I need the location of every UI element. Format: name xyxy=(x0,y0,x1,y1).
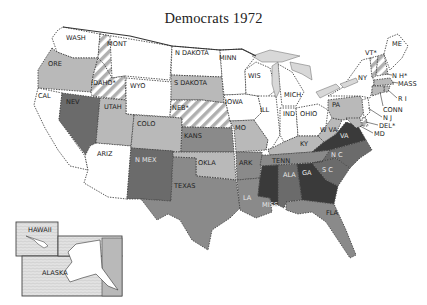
svg-text:N MEX: N MEX xyxy=(135,156,157,164)
state-wyo[interactable]: WYO xyxy=(126,78,172,117)
state-sdak[interactable]: S DAKOTA xyxy=(171,75,224,103)
svg-text:NY: NY xyxy=(358,74,368,82)
svg-text:TEXAS: TEXAS xyxy=(173,182,195,190)
svg-text:MONT: MONT xyxy=(107,40,128,48)
svg-text:MISS: MISS xyxy=(262,201,278,209)
svg-text:ALASKA: ALASKA xyxy=(42,269,68,277)
state-kans[interactable]: KANS xyxy=(181,127,234,152)
state-ri[interactable]: R I xyxy=(384,86,407,103)
svg-text:ARK: ARK xyxy=(239,159,253,167)
svg-text:LA: LA xyxy=(243,194,252,202)
svg-text:N H*: N H* xyxy=(392,72,408,80)
svg-text:WASH: WASH xyxy=(66,34,86,42)
svg-text:IND: IND xyxy=(283,110,295,118)
svg-text:N J: N J xyxy=(383,114,392,122)
svg-text:R I: R I xyxy=(398,95,407,103)
svg-text:ARIZ: ARIZ xyxy=(97,150,113,158)
inset-hawaii: HAWAII xyxy=(16,222,58,256)
svg-text:NEB*: NEB* xyxy=(172,104,190,112)
svg-text:OHIO: OHIO xyxy=(300,110,317,118)
svg-text:MINN: MINN xyxy=(219,54,237,62)
state-pa[interactable]: PA xyxy=(328,96,366,120)
svg-text:MD: MD xyxy=(374,130,385,138)
svg-text:ILL: ILL xyxy=(260,106,270,114)
svg-text:KANS: KANS xyxy=(184,132,202,140)
svg-text:KY: KY xyxy=(300,140,309,148)
svg-text:ORE: ORE xyxy=(48,60,62,68)
svg-text:TENN: TENN xyxy=(271,157,290,165)
svg-text:MO: MO xyxy=(235,124,246,132)
svg-text:DEL*: DEL* xyxy=(379,122,396,130)
svg-text:NEV: NEV xyxy=(66,98,80,106)
svg-text:ALA: ALA xyxy=(283,171,296,179)
svg-text:VA: VA xyxy=(340,132,349,140)
us-map: WASH ORE CAL MONT IDAHO* NEV WYO UTAH AR… xyxy=(0,0,427,305)
state-colo[interactable]: COLO xyxy=(131,115,182,152)
state-nmex[interactable]: N MEX xyxy=(127,148,173,201)
svg-text:CONN: CONN xyxy=(383,106,403,114)
svg-text:PA: PA xyxy=(332,101,341,109)
state-ndak[interactable]: N DAKOTA xyxy=(171,46,222,77)
svg-text:OKLA: OKLA xyxy=(198,159,216,167)
svg-text:UTAH: UTAH xyxy=(104,103,122,111)
svg-text:WIS: WIS xyxy=(248,72,261,80)
state-ark[interactable]: ARK xyxy=(236,152,262,180)
svg-text:COLO: COLO xyxy=(137,120,155,128)
svg-text:HAWAII: HAWAII xyxy=(28,226,52,234)
state-me[interactable]: ME xyxy=(384,34,408,70)
svg-text:WYO: WYO xyxy=(130,82,145,90)
state-ny[interactable]: NY xyxy=(328,58,374,98)
svg-text:N DAKOTA: N DAKOTA xyxy=(175,49,209,57)
svg-text:IOWA: IOWA xyxy=(225,98,243,106)
state-wis[interactable]: WIS xyxy=(245,62,276,98)
state-fla[interactable]: FLA xyxy=(286,200,356,258)
state-ind[interactable]: IND xyxy=(280,108,298,142)
state-ariz[interactable]: ARIZ xyxy=(84,143,131,199)
svg-text:FLA: FLA xyxy=(326,209,339,217)
svg-text:S DAKOTA: S DAKOTA xyxy=(174,79,207,87)
svg-text:VT*: VT* xyxy=(365,49,378,57)
svg-text:IDAHO*: IDAHO* xyxy=(91,79,117,87)
state-iowa[interactable]: IOWA xyxy=(224,94,262,121)
svg-text:CAL: CAL xyxy=(38,92,51,100)
svg-text:ME: ME xyxy=(392,40,402,48)
svg-text:GA: GA xyxy=(302,169,312,177)
svg-text:S C: S C xyxy=(322,166,333,174)
svg-text:MICH: MICH xyxy=(284,91,301,99)
svg-text:MASS: MASS xyxy=(398,80,417,88)
svg-text:W VA: W VA xyxy=(320,126,338,134)
svg-text:N C: N C xyxy=(331,151,343,159)
